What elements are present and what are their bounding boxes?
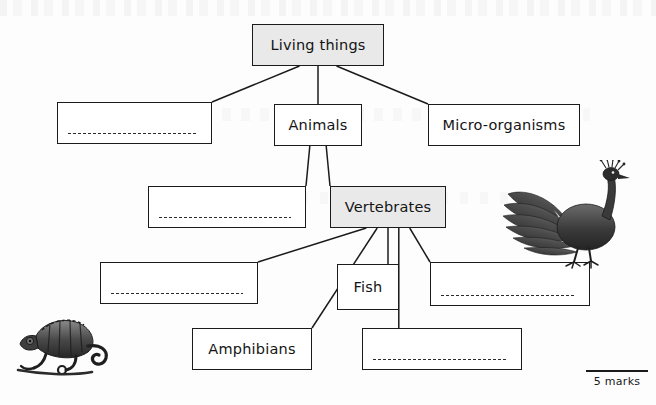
node-fish[interactable]: Fish xyxy=(337,264,399,310)
node-living-things[interactable]: Living things xyxy=(252,24,384,66)
node-label: Animals xyxy=(288,117,347,133)
marks-label: 5 marks xyxy=(586,375,648,388)
chameleon-illustration xyxy=(14,300,114,378)
node-animals[interactable]: Animals xyxy=(274,104,362,146)
edge-living-things-to-blank-1 xyxy=(212,66,300,102)
worksheet-page: Living thingsAnimalsMicro-organismsVerte… xyxy=(0,0,656,405)
edge-vertebrates-to-blank-3 xyxy=(258,228,366,262)
answer-dotted-line xyxy=(67,132,197,135)
edge-animals-to-blank-2 xyxy=(306,146,310,186)
edge-living-things-to-micro-organisms xyxy=(337,66,429,104)
answer-dotted-line xyxy=(158,216,291,219)
answer-dotted-line xyxy=(110,292,243,295)
node-label: Vertebrates xyxy=(345,199,432,215)
node-micro-organisms[interactable]: Micro-organisms xyxy=(428,104,580,146)
node-label: Amphibians xyxy=(208,341,295,357)
edge-vertebrates-to-blank-4 xyxy=(410,228,430,262)
node-blank-2[interactable] xyxy=(148,186,306,228)
node-label: Micro-organisms xyxy=(443,117,566,133)
node-vertebrates[interactable]: Vertebrates xyxy=(330,186,446,228)
marks-divider xyxy=(586,370,648,372)
answer-dotted-line xyxy=(372,358,507,361)
node-label: Living things xyxy=(270,37,365,53)
node-blank-3[interactable] xyxy=(100,262,258,304)
node-blank-1[interactable] xyxy=(57,102,212,144)
edge-animals-to-vertebrates xyxy=(326,146,330,186)
node-label: Fish xyxy=(354,279,383,295)
node-amphibians[interactable]: Amphibians xyxy=(192,328,312,370)
marks-footer: 5 marks xyxy=(586,370,648,388)
node-blank-5[interactable] xyxy=(362,328,522,370)
peacock-illustration xyxy=(494,160,644,276)
answer-dotted-line xyxy=(440,294,575,297)
